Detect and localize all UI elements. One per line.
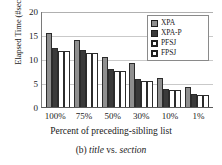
x-tick-label: 1% [185,111,213,121]
y-tick-label: 5 [34,80,39,89]
legend-swatch-icon [151,30,158,37]
legend-item: XPA [151,18,205,28]
figure-caption: (b) title vs. section [0,145,222,155]
legend-swatch-icon [151,20,158,27]
x-tick-label: 10% [156,111,184,121]
bar [92,53,98,107]
bar [147,81,153,107]
legend-label: FPSJ [161,49,176,57]
bar-group [74,12,98,107]
y-tick-label: 20 [29,8,38,17]
bar [203,95,209,107]
y-tick-label: 15 [29,32,38,41]
y-axis-tick-labels: 20151050 [18,8,38,108]
figure-bar-chart: Elapsed Time (#sec) 20151050 XPAXPA-PPFS… [0,0,222,165]
legend-label: PFSJ [161,39,176,47]
caption-prefix: (b) [76,145,89,155]
legend-swatch-icon [151,50,158,57]
x-tick-label: 100% [41,111,69,121]
x-axis-title: Percent of preceding-sibling list [0,126,222,136]
legend-item: XPA-P [151,28,205,38]
y-tick-label: 10 [29,56,38,65]
caption-italic-title: title [89,145,104,155]
x-tick-label: 75% [70,111,98,121]
x-axis-tick-labels: 100%75%50%30%10%1% [41,111,213,121]
bar [64,51,70,107]
x-tick-label: 30% [127,111,155,121]
legend-item: FPSJ [151,48,205,58]
bar [120,71,126,107]
bar-group [102,12,126,107]
legend-label: XPA-P [161,29,181,37]
y-tick-label: 0 [34,104,39,113]
bar [175,90,181,107]
caption-middle: vs. [104,145,120,155]
legend: XPAXPA-PPFSJFPSJ [147,15,209,61]
legend-label: XPA [161,19,175,27]
legend-swatch-icon [151,40,158,47]
bar-group [46,12,70,107]
caption-italic-section: section [119,145,146,155]
legend-item: PFSJ [151,38,205,48]
x-tick-label: 50% [99,111,127,121]
